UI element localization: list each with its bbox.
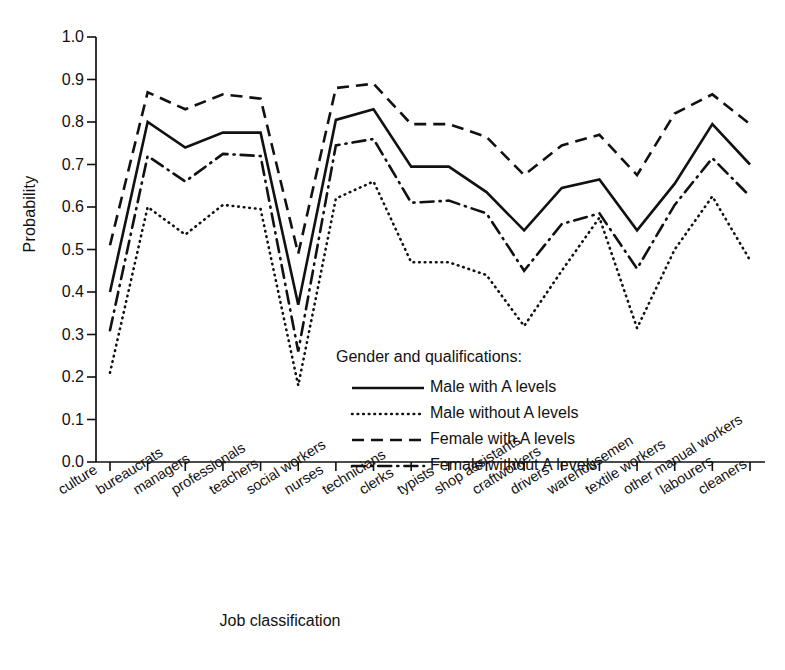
y-tick-label: 0.1 bbox=[40, 411, 84, 429]
y-tick-label: 0.7 bbox=[40, 156, 84, 174]
plot-area bbox=[0, 0, 785, 670]
y-tick-label: 0.5 bbox=[40, 241, 84, 259]
series-line bbox=[110, 84, 750, 254]
y-tick-label: 0.6 bbox=[40, 198, 84, 216]
legend-label: Male with A levels bbox=[430, 378, 556, 396]
y-tick-label: 1.0 bbox=[40, 28, 84, 46]
series-line bbox=[110, 139, 750, 352]
legend-label: Male without A levels bbox=[430, 404, 579, 422]
chart-figure: Probability Job classification 0.00.10.2… bbox=[0, 0, 785, 670]
legend-label: Female without A levels bbox=[430, 456, 597, 474]
y-tick-label: 0.2 bbox=[40, 368, 84, 386]
y-tick-label: 0.3 bbox=[40, 326, 84, 344]
y-tick-label: 0.9 bbox=[40, 71, 84, 89]
series-line bbox=[110, 109, 750, 305]
legend-label: Female with A levels bbox=[430, 430, 575, 448]
legend-title: Gender and qualifications: bbox=[336, 348, 522, 366]
y-tick-label: 0.4 bbox=[40, 283, 84, 301]
y-tick-label: 0.8 bbox=[40, 113, 84, 131]
y-tick-label: 0.0 bbox=[40, 453, 84, 471]
